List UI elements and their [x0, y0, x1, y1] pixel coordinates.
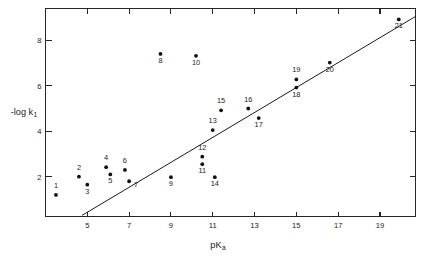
- x-tick-label: 9: [169, 221, 173, 230]
- data-point-label-12: 12: [198, 143, 206, 152]
- scatter-plot-figure: 5791113151719 2468 123456789101112131415…: [0, 0, 426, 259]
- y-tick-label: 4: [37, 127, 41, 136]
- axes: [46, 9, 416, 217]
- x-axis-label-subscript: a: [222, 244, 226, 251]
- data-point-1: [54, 193, 58, 197]
- y-tick-label: 6: [37, 82, 41, 91]
- data-point-6: [123, 168, 127, 172]
- x-tick-label: 13: [250, 221, 258, 230]
- data-point-label-20: 20: [326, 65, 334, 74]
- x-tick-label: 5: [85, 221, 89, 230]
- data-point-label-16: 16: [244, 95, 252, 104]
- regression-line: [82, 16, 415, 215]
- data-point-label-5: 5: [108, 176, 112, 185]
- data-point-7: [127, 179, 131, 183]
- data-point-19: [294, 78, 298, 82]
- data-point-label-11: 11: [198, 166, 206, 175]
- data-point-label-19: 19: [292, 65, 300, 74]
- plot-canvas: 5791113151719 2468 123456789101112131415…: [0, 0, 426, 259]
- axis-frame: [46, 9, 416, 217]
- data-point-label-6: 6: [123, 156, 127, 165]
- x-axis-label-main: pK: [210, 240, 222, 250]
- y-tick-label: 8: [37, 36, 41, 45]
- data-point-label-3: 3: [85, 187, 89, 196]
- data-point-label-17: 17: [255, 120, 263, 129]
- data-point-label-10: 10: [192, 58, 200, 67]
- x-tick-label: 11: [209, 221, 217, 230]
- y-tick-label: 2: [37, 173, 41, 182]
- data-point-label-13: 13: [209, 116, 217, 125]
- data-point-15: [219, 108, 223, 112]
- data-point-label-4: 4: [104, 153, 108, 162]
- y-axis-label-subscript: 1: [34, 111, 38, 118]
- data-point-16: [246, 107, 250, 111]
- data-points-group: 123456789101112131415161718192021: [54, 18, 403, 197]
- data-point-label-15: 15: [217, 96, 225, 105]
- x-tick-label: 19: [376, 221, 384, 230]
- x-axis-label: pKa: [210, 240, 226, 251]
- data-point-label-21: 21: [395, 21, 403, 30]
- y-axis-label-main: -log k: [11, 107, 34, 117]
- data-point-13: [211, 128, 215, 132]
- data-point-4: [104, 165, 108, 169]
- data-point-label-8: 8: [158, 56, 162, 65]
- data-point-label-9: 9: [169, 179, 173, 188]
- axis-titles: -log k1 pKa: [11, 107, 226, 251]
- data-point-label-14: 14: [211, 179, 219, 188]
- x-tick-label: 7: [127, 221, 131, 230]
- data-point-label-18: 18: [292, 90, 300, 99]
- x-axis-ticks: 5791113151719: [85, 9, 384, 230]
- trend-line-group: [82, 16, 415, 215]
- x-tick-label: 15: [292, 221, 300, 230]
- y-axis-label: -log k1: [11, 107, 38, 118]
- data-point-label-7: 7: [134, 180, 138, 189]
- x-tick-label: 17: [334, 221, 342, 230]
- data-point-label-2: 2: [77, 163, 81, 172]
- y-axis-ticks: 2468: [37, 36, 415, 181]
- data-point-label-1: 1: [54, 181, 58, 190]
- data-point-2: [77, 175, 81, 179]
- data-point-12: [200, 155, 204, 159]
